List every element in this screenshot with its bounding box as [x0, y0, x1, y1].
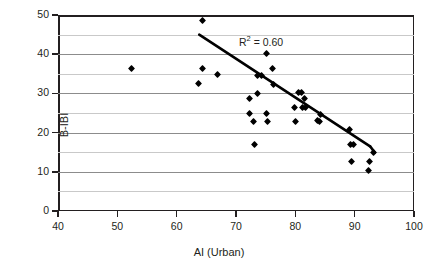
x-tick — [235, 211, 237, 217]
plot-area: R2 = 0.60 B-IBI — [58, 15, 414, 211]
y-tick-label: 50 — [37, 8, 49, 20]
x-tick-label: 90 — [349, 220, 361, 232]
x-tick-label: 60 — [171, 220, 183, 232]
x-tick — [354, 211, 356, 217]
y-tick-label: 20 — [37, 126, 49, 138]
x-tick-label: 70 — [230, 220, 242, 232]
x-tick — [117, 211, 119, 217]
x-tick-label: 40 — [52, 220, 64, 232]
x-tick — [413, 211, 415, 217]
y-tick-label: 0 — [43, 204, 49, 216]
x-tick — [176, 211, 178, 217]
x-tick-label: 80 — [289, 220, 301, 232]
x-tick — [295, 211, 297, 217]
scatter-chart-figure: R2 = 0.60 B-IBI 01020304050 405060708090… — [0, 0, 438, 277]
trendline-group — [58, 15, 414, 211]
y-tick-label: 40 — [37, 47, 49, 59]
r-squared-prefix: R — [239, 36, 247, 48]
r-squared-annotation: R2 = 0.60 — [239, 34, 283, 48]
trendline-segment — [199, 35, 370, 147]
x-tick-label: 50 — [111, 220, 123, 232]
y-axis-title: B-IBI — [58, 75, 70, 175]
r-squared-suffix: = 0.60 — [251, 36, 283, 48]
x-tick-label: 100 — [405, 220, 423, 232]
y-tick-label: 10 — [37, 165, 49, 177]
x-axis-title: AI (Urban) — [0, 246, 438, 258]
x-tick — [57, 211, 59, 217]
y-tick-label: 30 — [37, 86, 49, 98]
